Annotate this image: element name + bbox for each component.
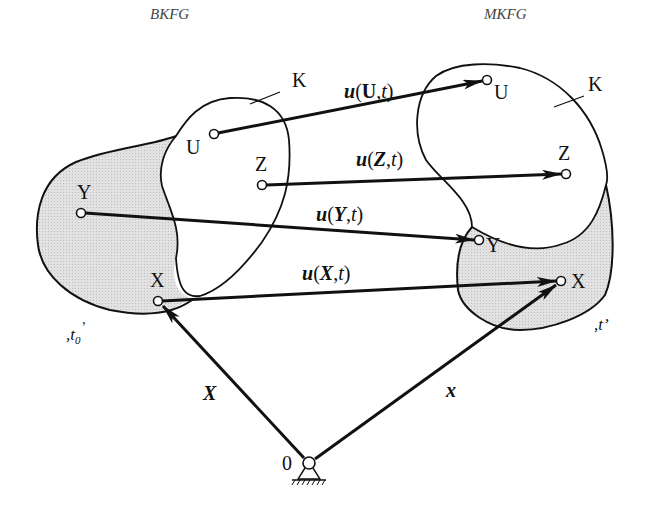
- point-label-y-ref: Y: [77, 181, 91, 203]
- current-position-label: x: [445, 379, 456, 401]
- ground-hatch-icon: [292, 480, 325, 485]
- displacement-label-y: u(Y,t): [316, 203, 363, 226]
- current-body-shaded: [457, 185, 612, 330]
- point-marker-x-ref: [154, 297, 163, 306]
- current-configuration-title: MKFG: [483, 6, 527, 22]
- current-position-arrow: [315, 285, 556, 459]
- point-label-u-cur: U: [494, 81, 509, 103]
- point-marker-u-cur: [483, 76, 492, 85]
- reference-configuration-title: BKFG: [150, 6, 189, 22]
- displacement-label-z: u(Z,t): [356, 148, 403, 171]
- reference-time-label: ,t0’: [66, 320, 85, 346]
- point-marker-x-cur: [557, 277, 566, 286]
- reference-body-shaded: [37, 136, 190, 314]
- point-marker-u-ref: [210, 130, 219, 139]
- origin-label: 0: [282, 452, 292, 474]
- diagram-svg: BKFG MKFG K ,t0’ K ,t’ u(U,t) u(Z,t) u(Y…: [0, 0, 648, 507]
- point-marker-z-ref: [258, 181, 267, 190]
- point-marker-y-cur: [475, 236, 484, 245]
- point-marker-z-cur: [562, 170, 571, 179]
- current-time-label: ,t’: [594, 315, 609, 334]
- body-label-k-left: K: [292, 69, 307, 91]
- displacement-label-u: u(U,t): [344, 80, 393, 103]
- point-label-u-ref: U: [186, 136, 201, 158]
- point-marker-y-ref: [77, 209, 86, 218]
- point-label-z-cur: Z: [558, 142, 570, 164]
- reference-subbody-k-outline: [161, 98, 290, 296]
- displacement-label-x: u(X,t): [302, 262, 350, 285]
- point-label-x-cur: X: [571, 270, 586, 292]
- body-label-k-right: K: [588, 73, 603, 95]
- reference-configuration: K ,t0’: [37, 69, 307, 346]
- displacement-arrow-z: [266, 174, 561, 185]
- reference-position-arrow: [163, 306, 304, 458]
- point-label-x-ref: X: [150, 269, 165, 291]
- origin-pivot-icon: [303, 457, 315, 469]
- reference-position-label: X: [202, 382, 217, 404]
- k-leader-line-left: [250, 92, 280, 104]
- current-subbody-k-outline: [417, 64, 607, 248]
- point-label-y-cur: Y: [486, 234, 500, 256]
- point-label-z-ref: Z: [255, 153, 267, 175]
- current-configuration: K ,t’: [417, 64, 613, 334]
- continuum-kinematics-diagram: BKFG MKFG K ,t0’ K ,t’ u(U,t) u(Z,t) u(Y…: [0, 0, 648, 507]
